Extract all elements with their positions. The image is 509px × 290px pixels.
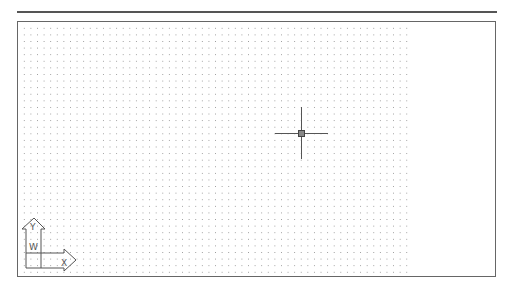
- ucs-x-label: X: [61, 258, 67, 268]
- ucs-axis-icon: Y W X: [20, 218, 80, 278]
- ucs-w-label: W: [29, 242, 38, 252]
- pickbox-icon: [298, 130, 305, 137]
- ribbon-divider: [17, 11, 497, 13]
- drawing-viewport[interactable]: Y W X: [17, 21, 496, 277]
- ucs-y-label: Y: [29, 222, 36, 232]
